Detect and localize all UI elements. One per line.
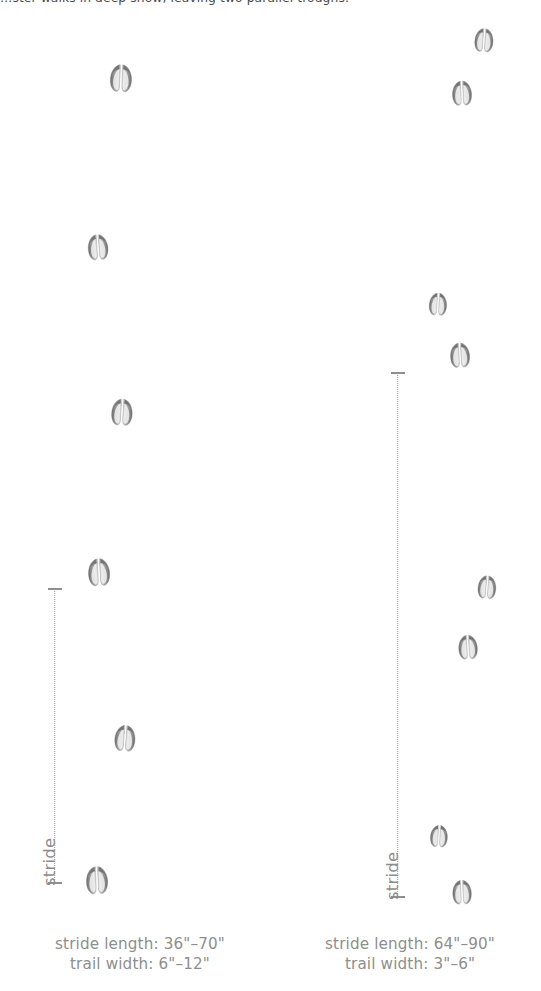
hoof-print [448,340,473,368]
hoof-print-icon [85,556,113,587]
hoof-print-icon [448,340,473,368]
hoof-print [427,291,450,317]
trail-measurements-caption: stride length: 36"–70"trail width: 6"–12… [10,934,270,974]
stride-length-text: stride length: 36"–70" [55,935,225,953]
hoof-print-icon [83,865,110,896]
stride-label: stride [40,838,59,886]
hoof-print-icon [107,63,134,94]
trail-width-text: trail width: 3"–6" [285,954,535,974]
hoof-print [111,723,138,753]
hoof-print [85,556,113,587]
hoof-print [107,63,134,94]
hoof-print-icon [450,878,474,905]
hoof-print [109,397,136,427]
trail-width-text: trail width: 6"–12" [10,954,270,974]
hoof-print-icon [427,291,450,317]
hoof-print-icon [475,574,499,601]
hoof-print [455,633,479,661]
hoof-print-icon [111,723,138,753]
measure-cap-top [48,588,62,590]
stride-length-text: stride length: 64"–90" [325,935,495,953]
hoof-print-icon [85,232,111,262]
measure-cap-top [391,372,405,374]
hoof-print-icon [428,823,450,848]
stride-measurement-line: stride [396,372,400,898]
hoof-print-icon [472,26,496,53]
hoof-print [450,878,474,905]
trail-measurements-caption: stride length: 64"–90"trail width: 3"–6" [285,934,535,974]
hoof-print-icon [450,79,474,107]
stride-measurement-line: stride [53,588,57,884]
hoof-print [472,26,496,53]
hoof-print-icon [455,633,479,661]
hoof-print [450,79,474,107]
hoof-print-icon [109,397,136,427]
hoof-print [428,823,450,848]
top-caption-truncated: …ster walks in deep snow, leaving two pa… [0,0,541,5]
hoof-print [83,865,110,896]
hoof-print [475,574,499,601]
track-diagram-canvas: …ster walks in deep snow, leaving two pa… [0,0,541,991]
stride-label: stride [383,852,402,900]
dotted-measure-line [397,372,398,898]
hoof-print [85,232,111,262]
